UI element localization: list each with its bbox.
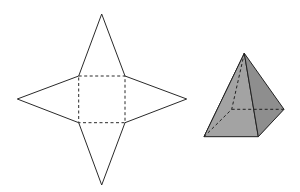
pyramid-net-figure [0, 0, 300, 192]
net-triangle-right [125, 76, 187, 123]
net-triangle-bottom [79, 123, 125, 185]
square-pyramid-solid [204, 53, 284, 136]
pyramid-net [17, 14, 186, 185]
net-triangle-left [17, 76, 78, 123]
net-triangle-top [79, 14, 125, 76]
net-square-base [79, 76, 125, 123]
